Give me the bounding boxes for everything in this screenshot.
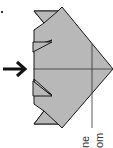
caption-fragment-1: ne — [80, 136, 91, 148]
folded-shape — [0, 0, 113, 148]
origami-diagram: ne om — [0, 0, 113, 148]
shape-body — [34, 7, 113, 128]
corner-mark — [1, 11, 3, 13]
caption-fragment-2: om — [94, 133, 105, 148]
arrow-right-icon — [3, 62, 25, 76]
